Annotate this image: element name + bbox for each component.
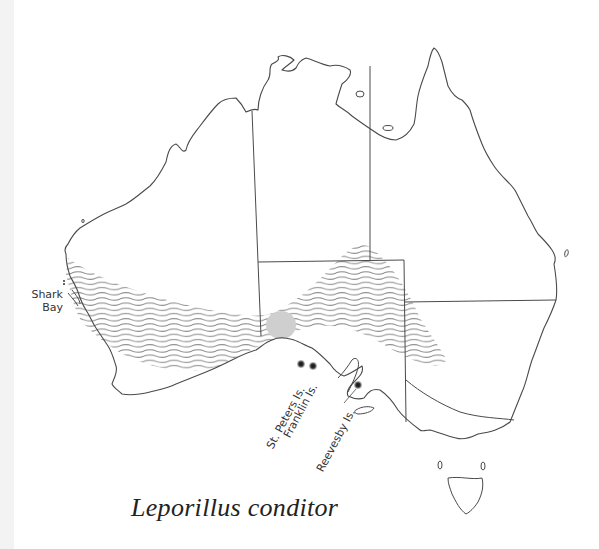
shark-bay-label-line1: Shark [27, 288, 63, 301]
australia-map [0, 0, 599, 549]
species-title: Leporillus conditor [131, 493, 338, 523]
tasmania-outline [448, 477, 483, 514]
shark-bay-marks [63, 280, 65, 285]
mainland-outline [65, 48, 557, 439]
shark-bay-label: Shark Bay [27, 288, 63, 314]
st-peters-island-dot [297, 360, 305, 368]
grey-range-blob [266, 311, 296, 339]
shark-bay-label-line2: Bay [27, 301, 63, 314]
franklin-island-dot [309, 362, 317, 370]
historic-range-area [66, 245, 447, 371]
state-borders [252, 66, 556, 422]
reevesby-leader-line [344, 389, 356, 403]
reevesby-island-dot [354, 381, 362, 389]
